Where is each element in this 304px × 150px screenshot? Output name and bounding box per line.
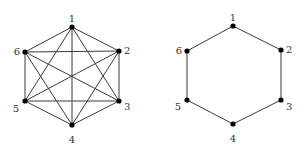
vertex-label-5: 5 — [175, 101, 181, 112]
edge-4-6 — [25, 52, 72, 125]
vertex-label-3: 3 — [286, 101, 292, 112]
vertex-6 — [22, 49, 27, 54]
vertex-label-1: 1 — [69, 13, 75, 24]
edge-4-5 — [25, 101, 72, 125]
vertex-5 — [184, 97, 189, 102]
vertex-4 — [69, 122, 74, 127]
vertex-label-6: 6 — [176, 45, 182, 56]
vertex-1 — [69, 24, 74, 29]
edge-1-2 — [233, 26, 281, 50]
edge-2-4 — [72, 51, 119, 125]
edge-2-6 — [25, 51, 119, 52]
vertex-2 — [278, 47, 283, 52]
vertex-5 — [22, 98, 27, 103]
vertex-6 — [184, 48, 189, 53]
vertex-label-2: 2 — [124, 45, 130, 56]
vertex-1 — [230, 23, 235, 28]
cycle-graph-c6: 123456 — [175, 12, 293, 144]
vertex-label-4: 4 — [69, 134, 75, 145]
edge-4-5 — [187, 100, 233, 124]
vertex-label-1: 1 — [230, 12, 236, 23]
complete-graph-k6: 123456 — [13, 13, 131, 145]
edge-1-6 — [25, 27, 72, 52]
vertex-label-6: 6 — [14, 46, 20, 57]
vertex-label-4: 4 — [230, 133, 236, 144]
vertex-4 — [230, 121, 235, 126]
vertex-3 — [116, 98, 121, 103]
graph-diagram: 123456 123456 — [0, 0, 304, 150]
vertex-label-2: 2 — [286, 44, 292, 55]
edge-3-4 — [233, 100, 281, 124]
vertex-3 — [278, 97, 283, 102]
edge-6-1 — [187, 26, 233, 51]
vertex-label-5: 5 — [13, 103, 19, 114]
vertex-2 — [116, 48, 121, 53]
vertex-label-3: 3 — [124, 101, 130, 112]
